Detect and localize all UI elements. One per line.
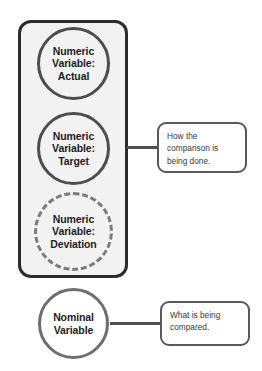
- callout-how-comparison-done: How the comparison is being done.: [157, 122, 247, 173]
- node-label-line: Actual: [58, 70, 90, 83]
- node-label-line: Numeric: [53, 130, 94, 143]
- node-label-line: Variable: [54, 324, 93, 337]
- node-label-line: Deviation: [50, 238, 96, 251]
- node-label-line: Variable:: [52, 225, 95, 238]
- node-label-line: Target: [58, 155, 89, 168]
- node-label-line: Nominal: [53, 311, 94, 324]
- callout-text: What is being compared.: [170, 309, 241, 334]
- callout-what-is-compared: What is being compared.: [160, 301, 250, 346]
- node-numeric-variable-actual[interactable]: Numeric Variable: Actual: [37, 27, 110, 100]
- connector-nominal-to-what-callout: [110, 322, 161, 325]
- node-label-line: Variable:: [52, 57, 95, 70]
- node-numeric-variable-target[interactable]: Numeric Variable: Target: [37, 112, 110, 185]
- connector-group-to-how-callout: [127, 146, 158, 149]
- node-numeric-variable-deviation[interactable]: Numeric Variable: Deviation: [34, 192, 113, 271]
- callout-text: How the comparison is being done.: [167, 130, 238, 167]
- diagram-canvas: Numeric Variable: Actual Numeric Variabl…: [0, 0, 262, 371]
- node-label-line: Numeric: [53, 213, 94, 226]
- node-nominal-variable[interactable]: Nominal Variable: [38, 288, 109, 359]
- node-label-line: Numeric: [53, 45, 94, 58]
- node-label-line: Variable:: [52, 142, 95, 155]
